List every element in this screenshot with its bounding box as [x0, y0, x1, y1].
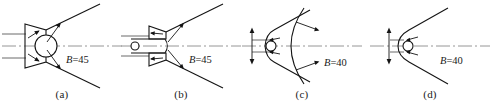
nose-circle — [35, 35, 57, 57]
shock-upper — [166, 4, 223, 32]
nose-circle — [266, 41, 276, 51]
angle-label-value: 45 — [201, 54, 212, 65]
panel-a-caption: (a) — [0, 88, 124, 100]
panel-d-caption: (d) — [368, 88, 492, 100]
panel-a: B=45 (a) — [0, 0, 124, 112]
panel-b-caption: (b) — [119, 88, 243, 100]
panel-d-drawing: B=40 — [368, 0, 492, 92]
velocity-arrow-inner-lower — [150, 57, 163, 61]
angle-label-c: B=40 — [324, 57, 347, 68]
angle-label-b: B=45 — [189, 54, 212, 65]
angle-label-value: 40 — [452, 55, 463, 66]
angle-label-value: 45 — [78, 54, 89, 65]
angle-label-d: B=40 — [440, 55, 463, 66]
angle-label-a: B=45 — [66, 54, 89, 65]
velocity-arrow-outer-lower — [168, 50, 184, 69]
velocity-arrow-outer-upper — [296, 22, 319, 31]
velocity-arrow-inner-upper — [28, 31, 40, 38]
panel-b: B=45 (b) — [119, 0, 243, 112]
velocity-arrow-outer-lower — [296, 61, 319, 70]
angle-label-value: 40 — [336, 57, 347, 68]
velocity-arrow-inner-lower — [28, 54, 40, 61]
velocity-arrow-outer-upper — [168, 23, 184, 42]
panel-d: B=40 (d) — [368, 0, 492, 112]
shock-upper — [46, 4, 100, 30]
panel-b-drawing: B=45 — [119, 0, 243, 92]
panel-c-drawing: B=40 — [240, 0, 364, 92]
panel-c-caption: (c) — [240, 88, 364, 100]
figure-container: B=45 (a) — [0, 0, 495, 112]
panel-c: B=40 (c) — [240, 0, 364, 112]
nose-circle — [131, 42, 139, 50]
nose-circle — [403, 41, 413, 51]
panel-a-drawing: B=45 — [0, 0, 124, 92]
velocity-arrow-inner-upper — [150, 31, 163, 35]
shock-lower — [46, 62, 100, 88]
